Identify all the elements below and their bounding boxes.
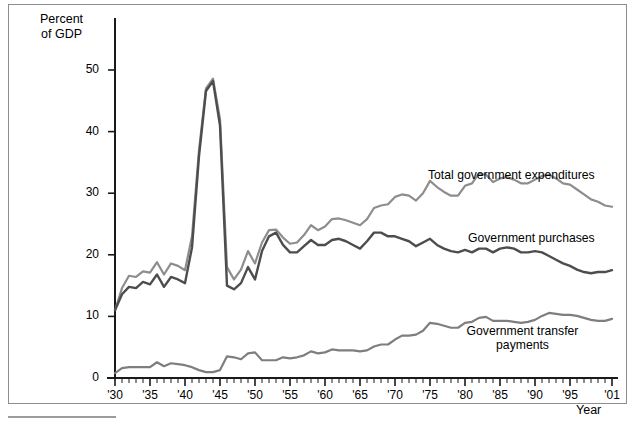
- x-tick-label: '95: [555, 388, 585, 402]
- y-tick-label: 10: [73, 308, 99, 322]
- series-label-government-transfer-payments: Government transfer payments: [450, 324, 595, 352]
- series-label-total-government-expenditures: Total government expenditures: [428, 168, 595, 182]
- x-tick-label: '70: [380, 388, 410, 402]
- y-tick-label: 20: [73, 247, 99, 261]
- y-tick-label: 30: [73, 185, 99, 199]
- x-tick-label: '50: [240, 388, 270, 402]
- x-tick-label: '40: [170, 388, 200, 402]
- footer-rule: [8, 416, 116, 418]
- x-tick-label: '80: [450, 388, 480, 402]
- x-tick-label: '75: [415, 388, 445, 402]
- x-tick-label: '35: [135, 388, 165, 402]
- y-tick-label: 50: [73, 62, 99, 76]
- series-line-total-government-expenditures: [115, 79, 612, 311]
- series-line-government-purchases: [115, 81, 612, 310]
- x-tick-label: '30: [100, 388, 130, 402]
- series-label-government-purchases: Government purchases: [468, 231, 595, 245]
- x-axis-title: Year: [576, 403, 601, 418]
- x-tick-label: '01: [597, 388, 627, 402]
- x-tick-label: '65: [345, 388, 375, 402]
- x-tick-label: '90: [520, 388, 550, 402]
- x-tick-label: '85: [485, 388, 515, 402]
- x-tick-label: '45: [205, 388, 235, 402]
- y-tick-label: 40: [73, 124, 99, 138]
- y-tick-label: 0: [73, 370, 99, 384]
- x-tick-label: '55: [275, 388, 305, 402]
- x-tick-label: '60: [310, 388, 340, 402]
- figure-container: Percent of GDP Year 01020304050 '30'35'4…: [0, 0, 637, 430]
- y-axis-title: Percent of GDP: [40, 12, 83, 42]
